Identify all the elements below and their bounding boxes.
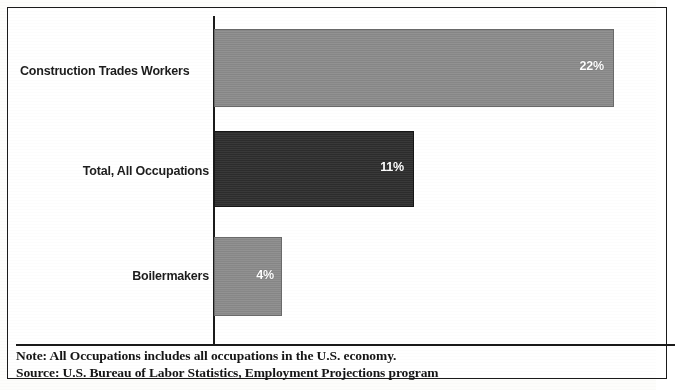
category-label-construction-trades-workers: Construction Trades Workers: [20, 64, 189, 78]
bar-row: Construction Trades Workers 22%: [16, 16, 675, 126]
category-label-boilermakers: Boilermakers: [132, 269, 209, 283]
category-label-total-all-occupations: Total, All Occupations: [83, 164, 209, 178]
bar-value-label-total-all-occupations: 11%: [380, 160, 404, 174]
bar-value-label-construction-trades-workers: 22%: [580, 59, 604, 73]
source-text: Source: U.S. Bureau of Labor Statistics,…: [16, 365, 656, 382]
bar-total-all-occupations[interactable]: 11%: [214, 131, 414, 207]
bar-row: Boilermakers 4%: [16, 212, 675, 312]
figure-border: Construction Trades Workers 22% Total, A…: [7, 7, 667, 379]
bar-construction-trades-workers[interactable]: 22%: [214, 29, 614, 107]
plot-bottom-rule: [16, 344, 675, 346]
bar-value-label-boilermakers: 4%: [256, 268, 274, 282]
plot-area: Construction Trades Workers 22% Total, A…: [16, 16, 675, 346]
notes-block: Note: All Occupations includes all occup…: [16, 348, 656, 381]
bar-row: Total, All Occupations 11%: [16, 124, 675, 220]
note-text: Note: All Occupations includes all occup…: [16, 348, 656, 365]
bar-boilermakers[interactable]: 4%: [214, 237, 282, 316]
